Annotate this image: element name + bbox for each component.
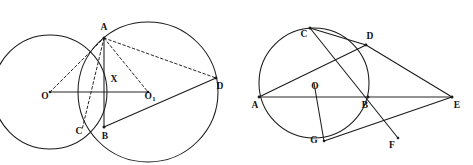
label-left-a: A bbox=[100, 23, 107, 33]
segment-oa-dashed bbox=[50, 38, 104, 92]
vertex-dot-a bbox=[103, 37, 106, 40]
vertex-dot-b bbox=[367, 96, 370, 99]
vertex-dot-f bbox=[397, 137, 400, 140]
label-right-a: A bbox=[251, 101, 258, 111]
label-right-f: F bbox=[389, 141, 395, 151]
segment-cd bbox=[310, 28, 366, 45]
geometry-figure-canvas: A B C D X O O1 A B C D E F G O bbox=[0, 0, 473, 165]
vertex-dot-g bbox=[323, 140, 326, 143]
vertex-dot-a bbox=[258, 96, 261, 99]
label-left-o1-sub: 1 bbox=[152, 95, 156, 102]
segment-bd bbox=[104, 78, 216, 127]
vertex-dot-d bbox=[365, 44, 368, 47]
vertex-dot-c bbox=[309, 27, 312, 30]
label-left-d: D bbox=[216, 82, 223, 92]
segment-ac-dashed bbox=[82, 38, 104, 130]
segment-ge bbox=[324, 97, 452, 141]
label-left-c: C bbox=[75, 127, 82, 137]
right-figure-group bbox=[258, 27, 454, 143]
vertex-dot-b bbox=[103, 126, 106, 129]
label-left-o: O bbox=[41, 92, 49, 102]
vertex-dot-o bbox=[49, 91, 52, 94]
label-right-o: O bbox=[311, 82, 319, 92]
vertex-dot-e bbox=[451, 96, 454, 99]
label-right-e: E bbox=[454, 101, 461, 111]
label-right-c: C bbox=[300, 30, 307, 40]
label-right-d: D bbox=[366, 32, 373, 42]
label-left-o1: O1 bbox=[144, 92, 155, 102]
geometry-vector-layer bbox=[0, 0, 473, 165]
label-left-x: X bbox=[110, 75, 117, 85]
left-figure-group bbox=[0, 22, 218, 162]
vertex-dot-d bbox=[215, 77, 218, 80]
segment-de bbox=[366, 45, 452, 97]
label-left-o1-main: O bbox=[144, 91, 152, 101]
label-right-g: G bbox=[310, 136, 318, 146]
label-right-b: B bbox=[362, 101, 369, 111]
label-left-b: B bbox=[102, 132, 109, 142]
